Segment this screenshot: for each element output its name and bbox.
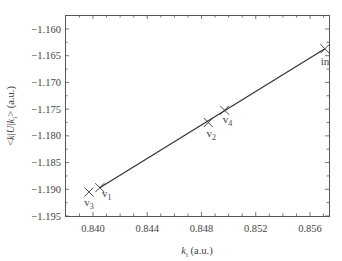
- x-marker: [320, 44, 329, 53]
- y-tick-label: −1.170: [31, 77, 61, 88]
- line-chart: 0.8400.8440.8480.8520.856 −1.160−1.165−1…: [0, 0, 342, 261]
- data-markers: v3v1v2v4in: [84, 44, 330, 211]
- point-label: v4: [223, 113, 233, 128]
- point-label: v3: [84, 196, 94, 211]
- y-tick-label: −1.175: [31, 104, 61, 115]
- y-tick-label: −1.190: [31, 184, 61, 195]
- y-tick-label: −1.180: [31, 130, 61, 141]
- x-tick-label: 0.840: [81, 223, 105, 234]
- y-tick-label: −1.165: [31, 50, 61, 61]
- point-label: v2: [207, 127, 217, 142]
- y-tick-label: −1.160: [31, 24, 61, 35]
- point-label: v1: [102, 187, 112, 202]
- y-tick-label: −1.195: [31, 211, 61, 222]
- x-tick-label: 0.852: [244, 223, 268, 234]
- y-tick-label: −1.185: [31, 157, 61, 168]
- y-axis: −1.160−1.165−1.170−1.175−1.180−1.185−1.1…: [31, 24, 329, 222]
- x-axis-title: ki (a.u.): [181, 245, 213, 259]
- x-tick-label: 0.848: [190, 223, 214, 234]
- x-tick-label: 0.856: [298, 223, 322, 234]
- x-tick-label: 0.844: [135, 223, 159, 234]
- point-label: in: [321, 55, 330, 67]
- y-axis-title: <k|U|ki> (a.u.): [5, 86, 19, 146]
